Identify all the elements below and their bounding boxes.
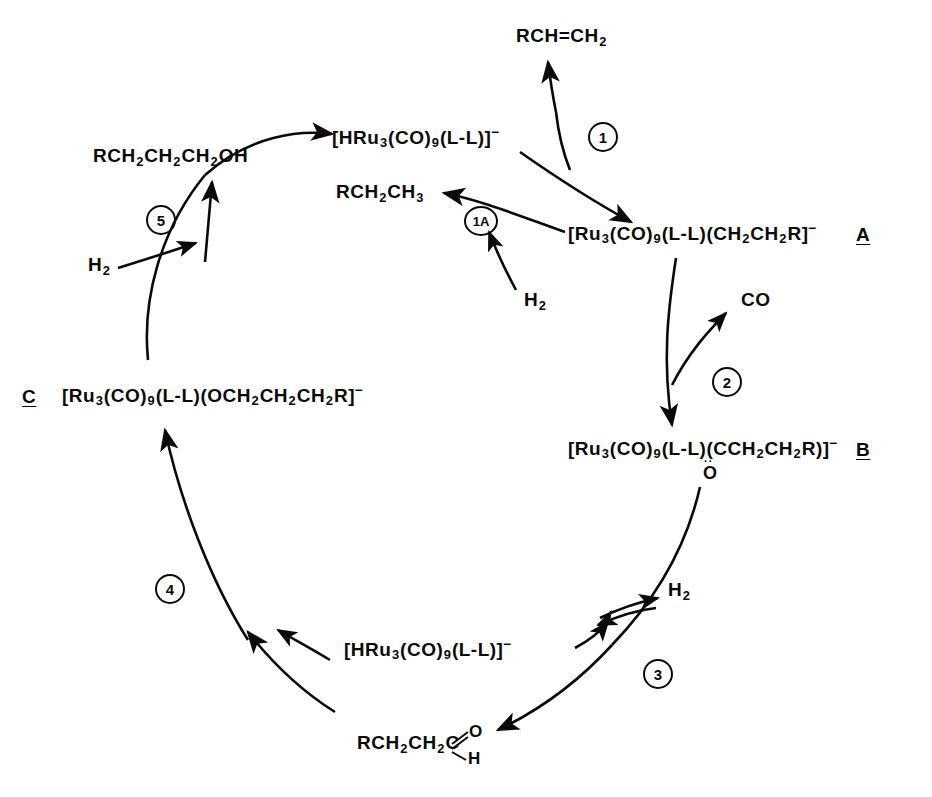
step-badge-5: 5 xyxy=(146,205,176,235)
step-1-label: 1 xyxy=(599,130,607,145)
step-2-label: 2 xyxy=(723,375,731,390)
step-3-label: 3 xyxy=(654,667,662,682)
step-badge-3: 3 xyxy=(643,659,673,689)
step-badge-4: 4 xyxy=(155,574,185,604)
step-badge-1a: 1A xyxy=(464,206,498,236)
step-badge-2: 2 xyxy=(712,367,742,397)
diagram-canvas: RCH=CH2 [HRu3(CO)9(L-L)]− RCH2CH2CH2OH R… xyxy=(0,0,932,797)
step-5-label: 5 xyxy=(157,213,165,228)
step-4-label: 4 xyxy=(166,582,174,597)
aldehyde-bonds xyxy=(0,0,932,797)
step-badge-1: 1 xyxy=(588,122,618,152)
step-1a-label: 1A xyxy=(473,215,490,228)
